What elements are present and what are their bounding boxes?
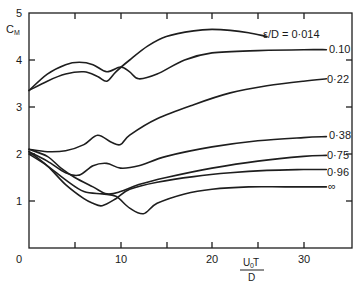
- svg-text:20: 20: [206, 253, 218, 265]
- curves: [29, 29, 326, 213]
- svg-text:M: M: [14, 29, 20, 36]
- svg-text:4: 4: [16, 54, 22, 66]
- label-0-10: 0.10: [329, 43, 350, 55]
- x-tick-labels: 10 20 30: [115, 253, 310, 265]
- svg-text:1: 1: [16, 195, 22, 207]
- x-axis-title: U 0 T D: [240, 257, 264, 283]
- svg-text:D: D: [248, 272, 255, 283]
- curve-series-2: [29, 79, 326, 152]
- x-axis-ticks: [75, 13, 304, 248]
- label-0-96: 0·96: [327, 166, 349, 178]
- svg-text:3: 3: [16, 101, 22, 113]
- svg-text:T: T: [253, 257, 259, 268]
- svg-text:5: 5: [16, 7, 22, 19]
- curve-labels: ε/D = 0·014 0.10 0·22 0·38 0·75 0·96 ∞: [263, 28, 351, 192]
- label-0-75: 0·75: [327, 149, 349, 161]
- svg-text:0: 0: [16, 253, 22, 265]
- svg-text:C: C: [6, 23, 14, 35]
- cm-vs-period-chart: 5 4 3 2 1 0 10 20 30 C M U 0 T D ε/D = 0…: [0, 0, 358, 289]
- svg-text:10: 10: [115, 253, 127, 265]
- y-tick-labels: 5 4 3 2 1 0: [16, 7, 22, 265]
- curve-series-0: [29, 29, 267, 90]
- label-0-22: 0·22: [327, 73, 349, 85]
- svg-text:2: 2: [16, 148, 22, 160]
- label-0-014: ε/D = 0·014: [263, 28, 320, 40]
- label-0-38: 0·38: [329, 129, 351, 141]
- plot-frame: [29, 13, 352, 248]
- curve-series-5: [29, 152, 326, 206]
- label-infinity: ∞: [328, 180, 336, 192]
- svg-text:30: 30: [298, 253, 310, 265]
- y-axis-title: C M: [6, 23, 20, 36]
- curve-series-6: [29, 154, 326, 214]
